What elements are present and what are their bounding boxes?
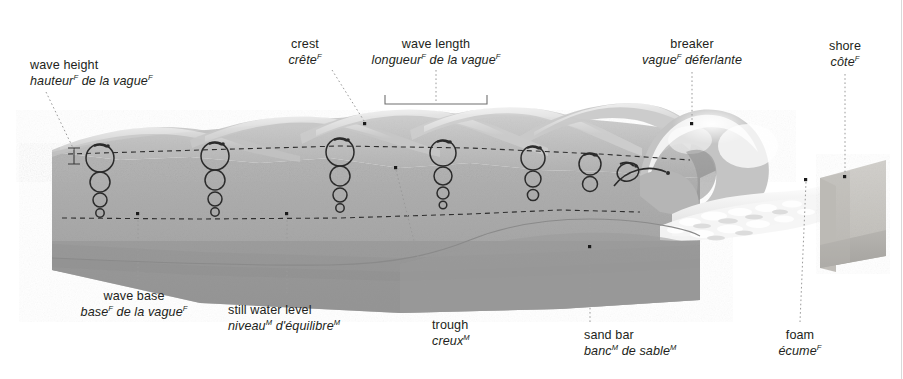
wet-sand-band — [820, 171, 850, 268]
dot-crest — [363, 122, 366, 125]
label-still-water-level: still water level niveauM d'équilibreM — [228, 303, 340, 335]
diagram-canvas: wave height hauteurF de la vagueF crest … — [0, 0, 903, 379]
label-wave-length: wave length longueurF de la vagueF — [316, 37, 556, 69]
dot-sand-bar — [588, 245, 591, 248]
page-edge-rule — [901, 0, 902, 379]
label-shore: shore côteF — [795, 39, 895, 71]
dot-trough — [394, 166, 397, 169]
label-trough: trough creuxM — [432, 318, 470, 350]
label-breaker-fr: vagueF déferlante — [580, 52, 804, 69]
label-wave-height-en: wave height — [30, 58, 153, 73]
label-shore-en: shore — [795, 39, 895, 54]
label-foam-en: foam — [750, 328, 850, 343]
label-shore-fr: côteF — [795, 54, 895, 71]
label-breaker-en: breaker — [580, 37, 804, 52]
label-sand-bar: sand bar bancM de sableM — [584, 328, 676, 360]
dot-wave-base — [136, 212, 139, 215]
label-wave-length-en: wave length — [316, 37, 556, 52]
label-still-water-level-fr: niveauM d'équilibreM — [228, 318, 340, 335]
label-trough-fr: creuxM — [432, 333, 470, 350]
dot-shore — [843, 175, 846, 178]
breaker-spray-3 — [668, 126, 712, 154]
label-breaker: breaker vagueF déferlante — [580, 37, 804, 69]
label-wave-base-en: wave base — [34, 289, 234, 304]
label-still-water-level-en: still water level — [228, 303, 340, 318]
dot-still-water-level — [285, 212, 288, 215]
dot-breaker — [690, 122, 693, 125]
shore-block — [820, 160, 886, 272]
label-sand-bar-en: sand bar — [584, 328, 676, 343]
leader-wave-height — [46, 92, 74, 150]
label-trough-en: trough — [432, 318, 470, 333]
label-wave-height: wave height hauteurF de la vagueF — [30, 58, 153, 90]
label-sand-bar-fr: bancM de sableM — [584, 343, 676, 360]
label-foam-fr: écumeF — [750, 343, 850, 360]
label-wave-base-fr: baseF de la vagueF — [34, 304, 234, 321]
label-wave-length-fr: longueurF de la vagueF — [316, 52, 556, 69]
label-wave-height-fr: hauteurF de la vagueF — [30, 73, 153, 90]
label-foam: foam écumeF — [750, 328, 850, 360]
dot-foam — [804, 178, 807, 181]
label-wave-base: wave base baseF de la vagueF — [34, 289, 234, 321]
